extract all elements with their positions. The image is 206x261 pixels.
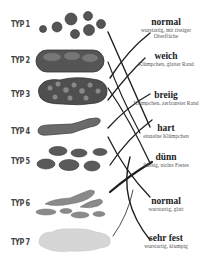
desc-breiig: breiig Klümpchen, zerfranster Rand (130, 90, 202, 106)
typ3-cracked (39, 78, 108, 105)
typ-1-label: TYP 1 (11, 19, 30, 29)
typ7-liquid (39, 229, 111, 252)
desc-hart: hart einzelne Klümpchen (130, 123, 202, 139)
desc-normal-2: normal wurstartig, glatt (130, 196, 202, 212)
desc-normal-1: normal wurstartig, mit rissiger Oberfläc… (130, 17, 202, 39)
desc-sehr-fest: sehr fest wurstartig, klumpig (130, 233, 202, 249)
typ-5-label: TYP 5 (11, 156, 30, 166)
typ-3-label: TYP 3 (11, 89, 30, 99)
typ-6-label: TYP 6 (11, 198, 30, 208)
desc-duenn: dünn flüssig, nichts Festes (130, 152, 202, 168)
typ5-blobs (37, 147, 107, 172)
typ-4-label: TYP 4 (11, 126, 30, 136)
desc-weich: weich Klümpchen, glatter Rand (130, 51, 202, 67)
typ-2-label: TYP 2 (11, 55, 30, 65)
typ6-mushy (36, 190, 105, 218)
typ2-sausage (36, 50, 104, 72)
typ-7-label: TYP 7 (11, 237, 30, 247)
typ4-smooth (38, 118, 100, 135)
typ1-lumps (40, 12, 106, 39)
